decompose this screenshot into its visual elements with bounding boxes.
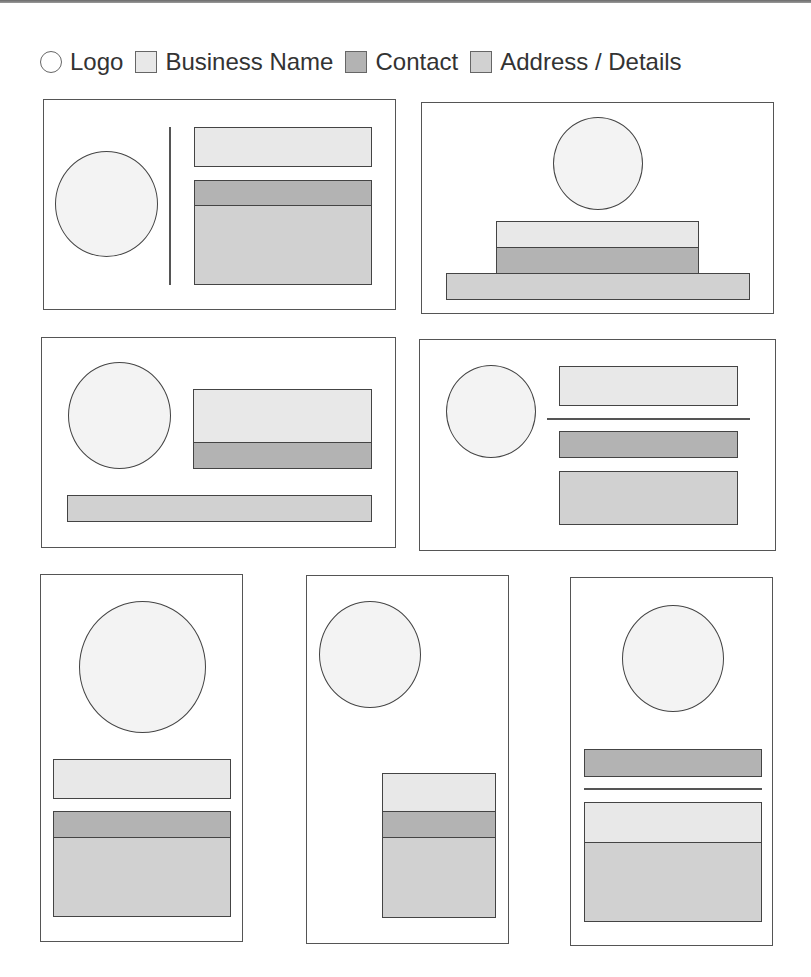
address-block (53, 837, 231, 917)
square-swatch-icon (135, 51, 157, 73)
horizontal-divider (547, 418, 750, 420)
legend-label: Address / Details (500, 48, 681, 76)
contact-block (496, 247, 699, 274)
horizontal-divider (584, 788, 762, 790)
address-block (67, 495, 372, 522)
layout-card-1 (43, 99, 396, 310)
address-block (584, 842, 762, 922)
contact-block (382, 811, 496, 839)
legend-item-business-name: Business Name (135, 48, 333, 76)
contact-block (559, 431, 738, 458)
business-name-block (496, 221, 699, 249)
business-name-block (559, 366, 738, 406)
address-block (446, 273, 750, 300)
square-swatch-icon (470, 51, 492, 73)
layout-card-6 (306, 575, 509, 944)
business-name-block (193, 389, 372, 444)
square-swatch-icon (345, 51, 367, 73)
logo-placeholder (319, 601, 421, 708)
logo-placeholder (622, 605, 724, 712)
layout-card-2 (421, 102, 774, 314)
circle-swatch-icon (40, 51, 62, 73)
business-name-block (194, 127, 372, 167)
legend-item-logo: Logo (40, 48, 123, 76)
business-name-block (382, 773, 496, 813)
layout-card-7 (570, 577, 773, 946)
address-block (559, 471, 738, 525)
logo-placeholder (68, 362, 171, 469)
layout-card-3 (41, 337, 396, 548)
legend-label: Business Name (165, 48, 333, 76)
business-name-block (584, 802, 762, 844)
business-name-block (53, 759, 231, 799)
address-block (382, 837, 496, 918)
legend-label: Contact (375, 48, 458, 76)
legend-item-contact: Contact (345, 48, 458, 76)
logo-placeholder (446, 365, 536, 458)
legend: Logo Business Name Contact Address / Det… (40, 46, 694, 78)
layout-card-4 (419, 339, 776, 551)
contact-block (194, 180, 372, 207)
contact-block (584, 749, 762, 777)
top-border-line (0, 0, 811, 3)
legend-item-address: Address / Details (470, 48, 681, 76)
vertical-divider (169, 127, 171, 285)
logo-placeholder (553, 117, 643, 210)
address-block (194, 205, 372, 285)
contact-block (53, 811, 231, 839)
logo-placeholder (79, 601, 206, 733)
legend-label: Logo (70, 48, 123, 76)
layout-card-5 (40, 574, 243, 942)
logo-placeholder (55, 151, 158, 257)
contact-block (193, 442, 372, 469)
